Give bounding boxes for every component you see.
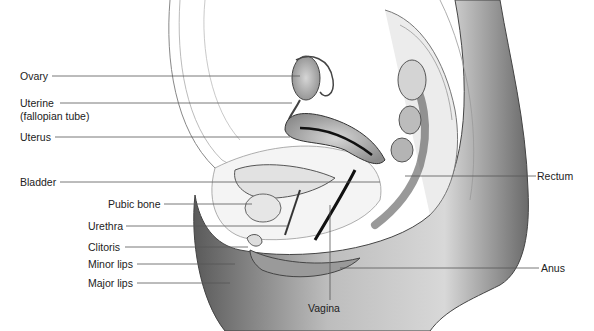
label-major-lips: Major lips xyxy=(88,277,133,289)
label-pubic-bone: Pubic bone xyxy=(108,198,161,210)
label-minor-lips: Minor lips xyxy=(88,258,133,270)
label-uterine-tube-sub: (fallopian tube) xyxy=(20,110,89,122)
label-uterine-tube: Uterine xyxy=(20,97,54,109)
clitoris xyxy=(247,235,262,247)
label-urethra: Urethra xyxy=(88,220,123,232)
ovary xyxy=(292,56,320,100)
label-vagina: Vagina xyxy=(308,302,340,314)
label-clitoris: Clitoris xyxy=(88,241,120,253)
label-bladder: Bladder xyxy=(20,176,56,188)
label-anus: Anus xyxy=(541,262,565,274)
label-ovary: Ovary xyxy=(20,70,48,82)
label-rectum: Rectum xyxy=(537,170,573,182)
pubic-bone xyxy=(245,194,281,222)
label-uterus: Uterus xyxy=(20,131,51,143)
